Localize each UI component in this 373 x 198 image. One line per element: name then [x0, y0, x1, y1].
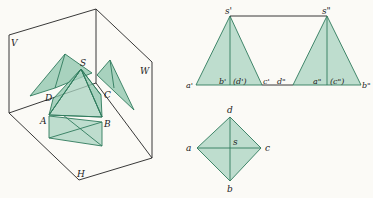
top-view: d a s c b	[186, 105, 270, 194]
h-projection	[49, 116, 102, 146]
label-d-prime: (d')	[233, 77, 247, 86]
label-a-prime: a'	[186, 81, 193, 90]
label-s-double-prime: s"	[322, 6, 331, 16]
label-c-double-prime: (c")	[330, 77, 344, 86]
label-c: c	[265, 143, 270, 153]
label-b-double-prime: b"	[362, 81, 371, 90]
front-view: s' a' b' (d') c'	[186, 6, 270, 90]
label-vertex-d: D	[44, 93, 52, 103]
pictorial-view: V W H S A B C D	[9, 9, 152, 180]
label-b: b	[227, 184, 233, 194]
label-vertex-s: S	[80, 58, 86, 68]
label-a-double-prime: a"	[313, 77, 321, 86]
w-plane-frame	[96, 9, 152, 158]
label-w-plane: W	[140, 66, 150, 76]
w-projection	[97, 60, 134, 110]
label-b-prime: b'	[219, 77, 226, 86]
label-d-double-prime: d"	[277, 77, 286, 86]
front-view-triangle	[196, 16, 262, 85]
label-a: a	[186, 143, 191, 153]
label-h-plane: H	[76, 169, 85, 179]
label-s: s	[233, 137, 238, 147]
diagram-svg: V W H S A B C D s' a' b' (d') c' s" d" a…	[0, 0, 373, 198]
label-vertex-b: B	[103, 119, 111, 129]
label-v-plane: V	[11, 38, 19, 48]
label-d: d	[227, 105, 233, 115]
label-vertex-a: A	[39, 116, 47, 126]
label-vertex-c: C	[104, 90, 111, 100]
diagram-canvas: V W H S A B C D s' a' b' (d') c' s" d" a…	[0, 0, 373, 198]
top-view-square	[197, 117, 261, 181]
side-view: s" d" a" (c") b"	[277, 6, 371, 90]
label-s-prime: s'	[225, 6, 232, 16]
